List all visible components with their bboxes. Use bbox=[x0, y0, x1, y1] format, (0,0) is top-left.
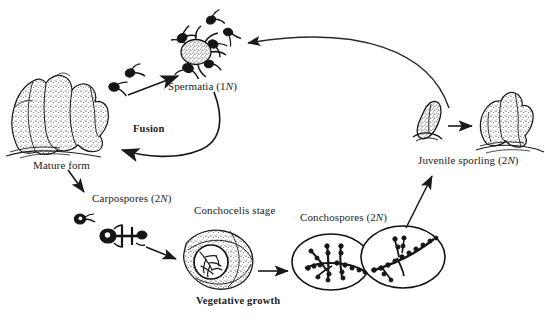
label-vegetative-growth: Vegetative growth bbox=[196, 296, 280, 307]
label-conchocelis-stage: Conchocelis stage bbox=[194, 205, 275, 216]
label-carpospores: Carpospores (2N) bbox=[92, 193, 172, 204]
label-mature-form: Mature form bbox=[33, 160, 90, 171]
label-spermatia: Spermatia (1N) bbox=[168, 81, 237, 92]
label-juvenile-sporling: Juvenile sporling (2N) bbox=[418, 155, 519, 166]
label-fusion: Fusion bbox=[133, 124, 165, 135]
label-conchospores: Conchospores (2N) bbox=[300, 212, 387, 223]
diagram-labels: Spermatia (1N) Fusion Mature form Carpos… bbox=[0, 0, 545, 323]
clipped-caption bbox=[30, 315, 490, 323]
life-cycle-diagram: Spermatia (1N) Fusion Mature form Carpos… bbox=[0, 0, 545, 323]
